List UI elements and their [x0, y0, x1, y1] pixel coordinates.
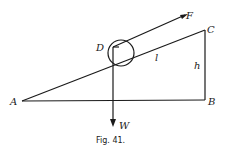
label-F: F	[185, 10, 194, 21]
label-W: W	[119, 120, 130, 131]
label-l: l	[155, 52, 158, 63]
label-h: h	[194, 60, 200, 71]
label-B: B	[207, 96, 215, 107]
label-A: A	[9, 96, 17, 107]
label-D: D	[95, 42, 104, 53]
inclined-plane-diagram: A B C D F W l h Fig. 41.	[0, 0, 226, 154]
label-C: C	[207, 24, 215, 35]
figure-caption: Fig. 41.	[96, 136, 125, 145]
arrowhead-W-icon	[110, 119, 116, 127]
